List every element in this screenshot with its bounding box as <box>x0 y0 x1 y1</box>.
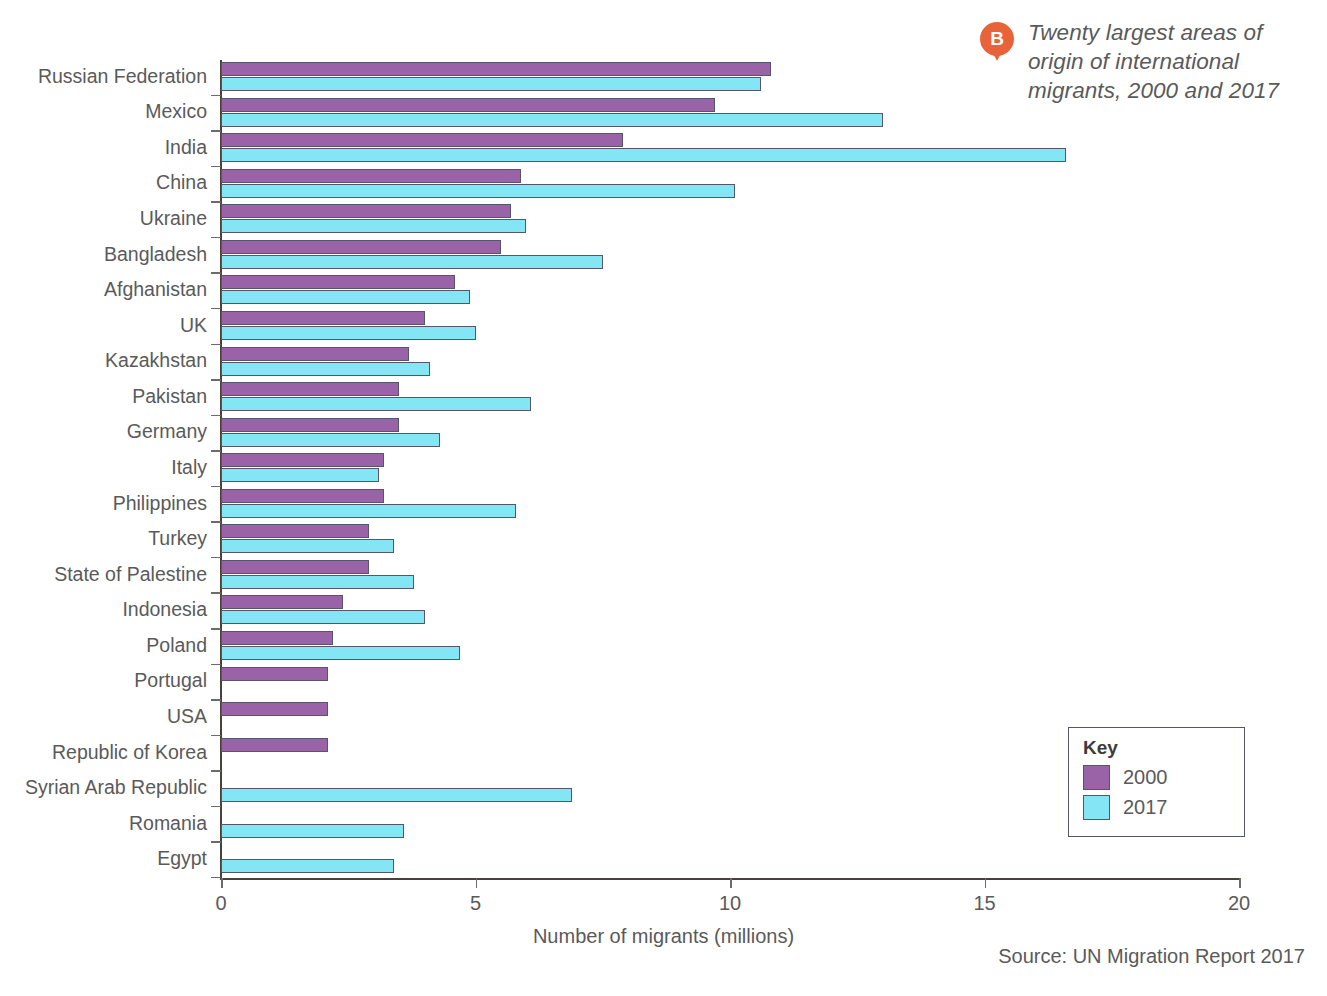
bar-2017 <box>221 255 603 269</box>
bar-2000 <box>221 98 715 112</box>
category-label: Germany <box>0 420 207 443</box>
bar-group: India <box>221 131 1239 167</box>
bar-group: Egypt <box>221 842 1239 878</box>
y-axis-tick <box>211 877 221 879</box>
legend-heading: Key <box>1083 737 1244 759</box>
x-axis-tick-label: 0 <box>215 892 226 915</box>
pin-badge-letter: B <box>980 22 1014 56</box>
legend-swatch-2017 <box>1083 795 1110 820</box>
y-axis-tick <box>211 841 221 843</box>
x-axis-tick-label: 5 <box>470 892 481 915</box>
bar-2000 <box>221 204 511 218</box>
bar-2000 <box>221 169 521 183</box>
legend-key: Key 2000 2017 <box>1068 727 1245 837</box>
category-label: Mexico <box>0 100 207 123</box>
bar-2000 <box>221 240 501 254</box>
y-axis-tick <box>211 415 221 417</box>
y-axis-tick <box>211 770 221 772</box>
category-label: State of Palestine <box>0 563 207 586</box>
x-axis-tick <box>985 878 987 888</box>
source-note: Source: UN Migration Report 2017 <box>998 945 1305 968</box>
y-axis-tick <box>211 166 221 168</box>
bar-group: Russian Federation <box>221 60 1239 96</box>
bar-group: Bangladesh <box>221 238 1239 274</box>
y-axis-tick <box>211 130 221 132</box>
bar-2000 <box>221 311 425 325</box>
category-label: Egypt <box>0 847 207 870</box>
y-axis-tick <box>211 201 221 203</box>
legend-item-2017: 2017 <box>1083 795 1244 820</box>
bar-2000 <box>221 702 328 716</box>
category-label: Turkey <box>0 527 207 550</box>
bar-2017 <box>221 113 883 127</box>
x-axis-tick-label: 10 <box>719 892 741 915</box>
bar-2017 <box>221 646 460 660</box>
bar-2017 <box>221 575 414 589</box>
bar-2017 <box>221 290 470 304</box>
category-label: India <box>0 136 207 159</box>
x-axis-tick <box>476 878 478 888</box>
y-axis-tick <box>211 95 221 97</box>
y-axis-tick <box>211 379 221 381</box>
bar-2017 <box>221 788 572 802</box>
y-axis-tick <box>211 308 221 310</box>
bar-2000 <box>221 489 384 503</box>
bar-2017 <box>221 468 379 482</box>
y-axis-tick <box>211 557 221 559</box>
bar-2017 <box>221 326 476 340</box>
bar-2000 <box>221 667 328 681</box>
bar-group: Portugal <box>221 665 1239 701</box>
bar-group: Poland <box>221 629 1239 665</box>
bar-2017 <box>221 148 1066 162</box>
bar-group: Ukraine <box>221 202 1239 238</box>
category-label: UK <box>0 314 207 337</box>
category-label: Pakistan <box>0 385 207 408</box>
y-axis-tick <box>211 664 221 666</box>
bar-group: Mexico <box>221 96 1239 132</box>
category-label: Philippines <box>0 492 207 515</box>
bar-group: Kazakhstan <box>221 345 1239 381</box>
bar-2017 <box>221 610 425 624</box>
map-pin-badge-icon: B <box>980 22 1014 56</box>
category-label: Republic of Korea <box>0 741 207 764</box>
bar-2017 <box>221 397 531 411</box>
category-label: USA <box>0 705 207 728</box>
bar-2000 <box>221 560 369 574</box>
x-axis-tick-label: 15 <box>973 892 995 915</box>
category-label: Romania <box>0 812 207 835</box>
x-axis-tick-label: 20 <box>1228 892 1250 915</box>
bar-group: Germany <box>221 416 1239 452</box>
y-axis-tick <box>211 521 221 523</box>
bar-2000 <box>221 62 771 76</box>
x-axis-tick <box>730 878 732 888</box>
y-axis-tick <box>211 592 221 594</box>
y-axis-tick <box>211 806 221 808</box>
y-axis-tick <box>211 628 221 630</box>
y-axis-tick <box>211 272 221 274</box>
category-label: Russian Federation <box>0 65 207 88</box>
y-axis-tick <box>211 486 221 488</box>
bar-2000 <box>221 133 623 147</box>
bar-chart: B Twenty largest areas of origin of inte… <box>0 0 1327 996</box>
bar-group: Turkey <box>221 522 1239 558</box>
category-label: Portugal <box>0 669 207 692</box>
bar-2017 <box>221 77 761 91</box>
bar-2000 <box>221 524 369 538</box>
bar-2000 <box>221 382 399 396</box>
bar-2000 <box>221 275 455 289</box>
category-label: Poland <box>0 634 207 657</box>
y-axis-tick <box>211 344 221 346</box>
category-label: Italy <box>0 456 207 479</box>
bar-group: Afghanistan <box>221 273 1239 309</box>
legend-swatch-2000 <box>1083 765 1110 790</box>
category-label: Bangladesh <box>0 243 207 266</box>
bar-group: China <box>221 167 1239 203</box>
y-axis-tick <box>211 699 221 701</box>
legend-item-2000: 2000 <box>1083 765 1244 790</box>
y-axis-tick <box>211 450 221 452</box>
y-axis-tick <box>211 735 221 737</box>
bar-2000 <box>221 453 384 467</box>
category-label: Afghanistan <box>0 278 207 301</box>
legend-label-2017: 2017 <box>1123 796 1168 819</box>
bar-2017 <box>221 859 394 873</box>
